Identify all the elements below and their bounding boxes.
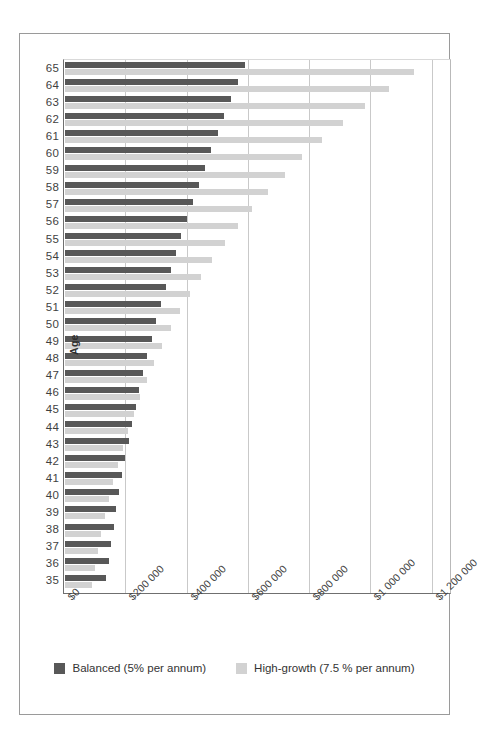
bar-row	[65, 352, 450, 369]
y-axis-tick-label: 45	[46, 404, 59, 414]
bar-balanced	[65, 472, 122, 478]
bar-high-growth	[65, 462, 118, 468]
bar-balanced	[65, 130, 218, 136]
y-axis-tick-label: 63	[46, 97, 59, 107]
bar-balanced	[65, 438, 129, 444]
bar-high-growth	[65, 172, 285, 178]
bar-high-growth	[65, 496, 109, 502]
bar-high-growth	[65, 411, 134, 417]
bar-balanced	[65, 455, 125, 461]
bar-high-growth	[65, 137, 322, 143]
y-axis-tick-label: 35	[46, 575, 59, 585]
y-axis-tick-label: 56	[46, 216, 59, 226]
bar-balanced	[65, 79, 238, 85]
bar-high-growth	[65, 428, 128, 434]
y-axis-tick-label: 36	[46, 558, 59, 568]
bar-high-growth	[65, 189, 268, 195]
y-axis-tick-label: 43	[46, 439, 59, 449]
bar-row	[65, 437, 450, 454]
bar-balanced	[65, 96, 231, 102]
plot-area	[63, 59, 451, 594]
bar-row	[65, 95, 450, 112]
y-axis-tick-label: 42	[46, 456, 59, 466]
bar-balanced	[65, 404, 136, 410]
bar-row	[65, 146, 450, 163]
bar-balanced	[65, 575, 106, 581]
legend-swatch-high-growth-icon	[236, 663, 247, 674]
bar-high-growth	[65, 582, 92, 588]
y-axis-tick-label: 41	[46, 473, 59, 483]
y-axis-tick-label: 52	[46, 285, 59, 295]
bar-row	[65, 129, 450, 146]
bar-balanced	[65, 506, 116, 512]
bar-row	[65, 335, 450, 352]
bar-row	[65, 112, 450, 129]
y-axis-tick-label: 57	[46, 199, 59, 209]
bar-row	[65, 266, 450, 283]
y-axis-tick-label: 50	[46, 319, 59, 329]
bar-high-growth	[65, 291, 190, 297]
y-axis-tick-label: 38	[46, 524, 59, 534]
bar-row	[65, 369, 450, 386]
bar-row	[65, 420, 450, 437]
y-axis-tick-label: 39	[46, 507, 59, 517]
bar-high-growth	[65, 86, 389, 92]
legend-swatch-balanced-icon	[54, 663, 65, 674]
bar-high-growth	[65, 548, 98, 554]
bar-balanced	[65, 284, 166, 290]
bar-row	[65, 454, 450, 471]
y-axis-tick-label: 55	[46, 234, 59, 244]
bar-balanced	[65, 233, 181, 239]
bar-balanced	[65, 558, 109, 564]
bar-row	[65, 181, 450, 198]
plot-wrapper: 6564636261605958575655545352515049484746…	[63, 59, 451, 594]
bar-row	[65, 249, 450, 266]
legend-label-balanced: Balanced (5% per annum)	[72, 662, 206, 674]
y-axis-tick-label: 62	[46, 114, 59, 124]
bar-row	[65, 471, 450, 488]
bar-high-growth	[65, 394, 140, 400]
bar-row	[65, 164, 450, 181]
bar-high-growth	[65, 479, 113, 485]
bar-row	[65, 61, 450, 78]
legend-item-balanced: Balanced (5% per annum)	[54, 662, 206, 674]
y-axis-tick-label: 40	[46, 490, 59, 500]
bar-high-growth	[65, 103, 365, 109]
bar-row	[65, 300, 450, 317]
y-axis-tick-label: 51	[46, 302, 59, 312]
bar-high-growth	[65, 360, 154, 366]
bar-high-growth	[65, 257, 212, 263]
y-axis-tick-label: 46	[46, 387, 59, 397]
bar-high-growth	[65, 445, 123, 451]
y-axis-tick-label: 53	[46, 268, 59, 278]
chart-legend: Balanced (5% per annum) High-growth (7.5…	[20, 662, 449, 674]
bar-high-growth	[65, 513, 105, 519]
bar-balanced	[65, 541, 111, 547]
y-axis-tick-label: 47	[46, 370, 59, 380]
bar-balanced	[65, 489, 119, 495]
bar-balanced	[65, 199, 193, 205]
bar-row	[65, 317, 450, 334]
y-axis-tick-label: 37	[46, 541, 59, 551]
bar-balanced	[65, 421, 132, 427]
bar-balanced	[65, 147, 211, 153]
bar-balanced	[65, 113, 224, 119]
bar-high-growth	[65, 69, 414, 75]
y-axis-tick-labels: 6564636261605958575655545352515049484746…	[19, 60, 59, 592]
y-axis-tick-label: 54	[46, 251, 59, 261]
bar-balanced	[65, 318, 156, 324]
bar-balanced	[65, 301, 161, 307]
y-axis-tick-label: 60	[46, 148, 59, 158]
y-axis-tick-label: 64	[46, 80, 59, 90]
bar-high-growth	[65, 565, 95, 571]
bar-row	[65, 540, 450, 557]
bar-balanced	[65, 387, 139, 393]
bar-row	[65, 505, 450, 522]
bar-row	[65, 78, 450, 95]
bar-balanced	[65, 524, 114, 530]
x-axis-tick-labels: $0$200 000$400 000$600 000$800 000$1 000…	[63, 594, 453, 654]
bar-high-growth	[65, 274, 201, 280]
bar-row	[65, 403, 450, 420]
y-axis-tick-label: 61	[46, 131, 59, 141]
bar-balanced	[65, 216, 187, 222]
